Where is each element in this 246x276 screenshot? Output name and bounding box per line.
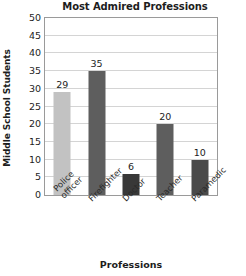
bar-group: 20: [148, 18, 182, 195]
y-axis-tick-labels: 50454035302520151050: [14, 17, 41, 196]
y-axis-tick-label: 10: [14, 155, 41, 165]
bar-value-label: 10: [194, 148, 206, 158]
y-axis-tick-label: 45: [14, 31, 41, 41]
bar-chart: Most Admired Professions Middle School S…: [0, 0, 246, 276]
chart-title: Most Admired Professions: [46, 1, 224, 13]
y-axis-tick-label: 20: [14, 119, 41, 129]
bar-value-label: 29: [56, 80, 68, 90]
y-axis-title: Middle School Students: [2, 49, 12, 167]
x-axis-title: Professions: [44, 259, 218, 270]
bar-value-label: 6: [128, 162, 134, 172]
y-axis-tick-label: 30: [14, 84, 41, 94]
y-axis-tick-label: 25: [14, 102, 41, 112]
x-axis-tick-labels: PoliceofficerFirefighterDoctorTeacherPar…: [45, 197, 217, 255]
y-axis-tick-label: 35: [14, 66, 41, 76]
bar-group: 35: [79, 18, 113, 195]
y-axis-tick-label: 40: [14, 48, 41, 58]
y-axis-tick-label: 5: [14, 172, 41, 182]
y-axis-tick-label: 50: [14, 13, 41, 23]
bar[interactable]: [88, 71, 105, 195]
bar-group: 29: [45, 18, 79, 195]
bar-value-label: 35: [91, 59, 103, 69]
bar-value-label: 20: [159, 112, 171, 122]
y-axis-title-container: Middle School Students: [0, 18, 14, 198]
y-axis-tick-label: 0: [14, 190, 41, 200]
bar-group: 10: [183, 18, 217, 195]
y-axis-tick-label: 15: [14, 137, 41, 147]
